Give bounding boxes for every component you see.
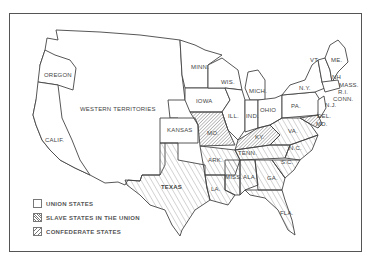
label-wis: WIS. [221,79,235,85]
label-oregon: OREGON [44,72,72,78]
legend-label: CONFEDERATE STATES [46,229,121,235]
label-ala: ALA. [243,174,257,180]
label-nc: N.C. [289,145,302,151]
label-mich: MICH. [249,88,267,94]
label-sc: S.C. [281,159,293,165]
legend-label: SLAVE STATES IN THE UNION [46,215,140,221]
label-va: VA. [288,128,298,134]
label-ri: R.I. [338,89,348,95]
label-del: DEL. [317,113,331,119]
label-tenn: TENN. [238,150,257,156]
map-legend: UNION STATES SLAVE STATES IN THE UNION C… [33,198,140,240]
label-ky: KY. [255,134,265,140]
label-ark: ARK. [208,157,223,163]
label-ind: IND. [246,113,259,119]
region-mich [245,70,265,100]
confederate-swatch-icon [33,227,42,236]
slave-swatch-icon [33,213,42,222]
label-iowa: IOWA [196,98,213,104]
label-fla: FLA. [280,210,293,216]
label-ill: ILL. [228,113,239,119]
label-me: ME. [331,57,342,63]
label-md: MD. [316,121,328,127]
label-pa: PA. [291,103,301,109]
label-calif: CALIF. [45,137,64,143]
label-mo: MO. [207,130,219,136]
legend-item-confederate: CONFEDERATE STATES [33,226,140,237]
label-ny: N.Y. [299,85,311,91]
legend-label: UNION STATES [46,201,93,207]
label-vt: VT. [310,57,319,63]
label-ga: GA. [267,175,278,181]
region-pa [282,92,320,118]
label-western-territories: WESTERN TERRITORIES [80,106,156,112]
label-ohio: OHIO [260,107,276,113]
label-texas: TEXAS [161,184,182,190]
legend-item-union: UNION STATES [33,198,140,209]
label-la: LA. [211,186,221,192]
label-nj: N.J. [325,102,336,108]
union-swatch-icon [33,199,42,208]
label-nh: NH [332,74,341,80]
label-miss: MISS. [225,174,242,180]
region-wis [208,58,242,90]
label-kansas: KANSAS [167,127,193,133]
legend-item-slave: SLAVE STATES IN THE UNION [33,212,140,223]
label-mass: MASS. [339,82,359,88]
label-minn: MINN. [191,64,209,70]
